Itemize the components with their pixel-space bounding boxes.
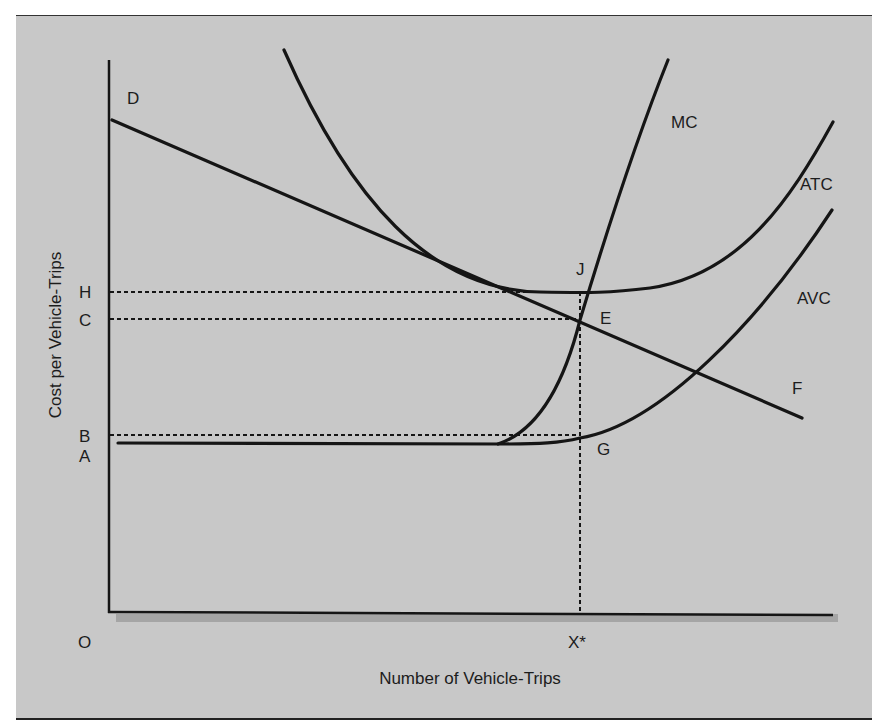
x-tick-origin: O <box>78 633 91 652</box>
atc-curve <box>284 50 833 293</box>
y-tick-b: B <box>79 427 90 446</box>
avc-curve <box>118 210 832 444</box>
label-j: J <box>576 260 585 279</box>
y-tick-c: C <box>79 311 91 330</box>
cost-curves-chart: D MC ATC AVC F J E G H C B A O X* Number… <box>0 0 877 720</box>
label-d: D <box>127 89 139 108</box>
label-e: E <box>600 309 611 328</box>
y-axis-title: Cost per Vehicle-Trips <box>46 252 65 419</box>
label-avc: AVC <box>797 289 831 308</box>
label-mc: MC <box>671 113 697 132</box>
label-f: F <box>792 379 802 398</box>
x-tick-xstar: X* <box>568 633 586 652</box>
label-atc: ATC <box>800 175 833 194</box>
mc-curve <box>498 60 668 444</box>
y-tick-h: H <box>79 283 91 302</box>
x-axis-title: Number of Vehicle-Trips <box>379 669 561 688</box>
label-g: G <box>597 440 610 459</box>
demand-curve <box>112 120 802 418</box>
y-tick-a: A <box>79 447 91 466</box>
